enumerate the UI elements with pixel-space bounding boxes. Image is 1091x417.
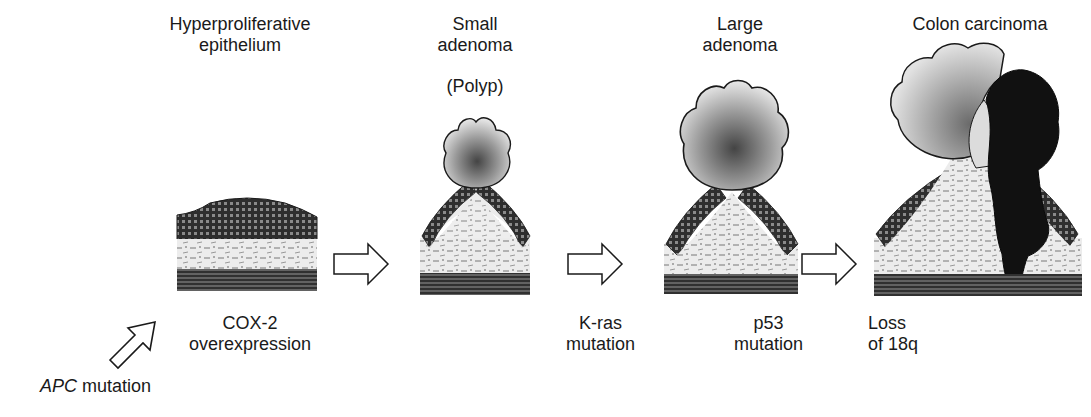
hyperproliferative-epithelium-illustration [175,195,320,300]
stage-label-line: epithelium [150,35,330,56]
stage-label-large-adenoma: Large adenoma [690,14,790,56]
stage-label-colon-carcinoma: Colon carcinoma [895,14,1065,35]
event-label-line: overexpression [170,334,330,355]
small-adenoma-illustration [418,108,533,303]
event-label-p53: p53 mutation [716,313,821,355]
stage-label-line: adenoma [425,35,525,56]
stage-label-small-adenoma: Small adenoma [425,14,525,56]
event-label-line: COX-2 [170,313,330,334]
event-label-cox2: COX-2 overexpression [170,313,330,355]
event-label-kras: K-ras mutation [548,313,653,355]
event-label-line: mutation [716,334,821,355]
progression-arrow-icon [332,242,392,286]
event-label-line: p53 [716,313,821,334]
stage-label-line: Small [425,14,525,35]
progression-arrow-icon [800,242,860,286]
progression-arrow-icon [566,242,626,286]
stage-label-line: Hyperproliferative [150,14,330,35]
event-label-line: mutation [548,334,653,355]
stage-label-line: Large [690,14,790,35]
stage-label-line: adenoma [690,35,790,56]
colon-carcinoma-illustration [872,38,1087,308]
event-label-line: of 18q [868,334,938,355]
event-label-loss-18q: Loss of 18q [868,313,938,355]
stage-label-hyperproliferative: Hyperproliferative epithelium [150,14,330,56]
large-adenoma-illustration [662,72,802,304]
event-label-line: K-ras [548,313,653,334]
gene-name-apc: APC [40,376,77,396]
event-label-line: Loss [868,313,938,334]
apc-arrow-icon [100,310,170,380]
polyp-sublabel: (Polyp) [425,76,525,97]
